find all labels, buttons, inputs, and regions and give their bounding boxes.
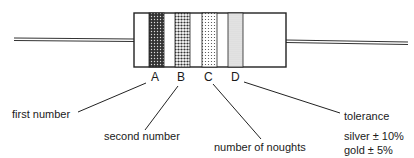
band-label-b: B (177, 71, 185, 83)
tolerance-label: tolerance (344, 110, 389, 122)
second-number-label: second number (104, 130, 180, 142)
right-lead-wire (286, 40, 408, 45)
band-label-a: A (151, 71, 159, 83)
band-a (149, 13, 164, 67)
number-of-noughts-label: number of noughts (214, 141, 306, 153)
band-label-d: D (231, 71, 240, 83)
first-number-label: first number (12, 108, 70, 120)
left-lead-wire (14, 38, 134, 42)
leader-line-a (78, 83, 146, 112)
tolerance-gold-value: gold ± 5% (344, 144, 393, 156)
tolerance-silver-value: silver ± 10% (344, 130, 404, 142)
leader-line-d (244, 82, 340, 113)
leader-line-b (145, 86, 178, 130)
band-label-c: C (204, 71, 213, 83)
band-b (175, 13, 190, 67)
band-d (228, 13, 243, 67)
band-c (202, 13, 217, 67)
leader-line-c (213, 84, 261, 139)
